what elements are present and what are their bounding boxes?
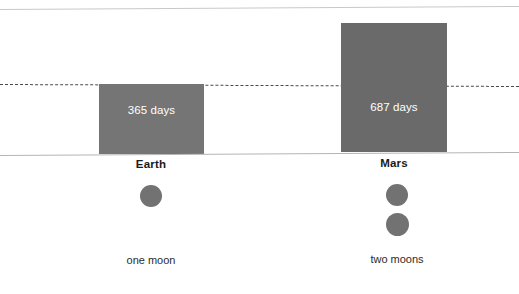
moon-circle-icon <box>386 184 408 206</box>
moon-circle-icon <box>386 213 409 236</box>
category-label-earth: Earth <box>81 158 221 170</box>
bar-mars: 687 days <box>341 23 447 152</box>
bar-earth: 365 days <box>99 84 204 154</box>
moon-caption-earth: one moon <box>71 254 231 266</box>
moon-caption-mars: two moons <box>317 253 477 265</box>
bar-mars-value-label: 687 days <box>341 101 447 113</box>
moon-circle-icon <box>140 185 162 207</box>
baseline-axis-line <box>0 152 519 156</box>
bar-earth-value-label: 365 days <box>99 104 204 116</box>
top-rule-line <box>0 6 519 10</box>
category-label-mars: Mars <box>324 157 464 169</box>
planet-comparison-chart: 365 days 687 days Earth Mars one moon tw… <box>0 0 519 294</box>
